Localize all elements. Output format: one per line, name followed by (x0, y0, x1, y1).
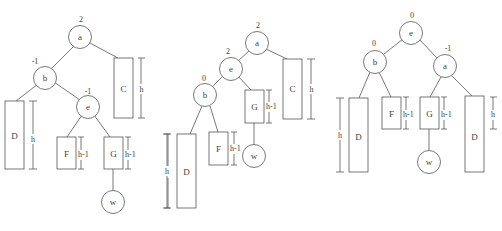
height-bracket-D: h (163, 134, 171, 208)
svg-text:2: 2 (79, 15, 83, 24)
svg-text:e: e (229, 64, 233, 74)
node-e: e 0 (400, 11, 423, 45)
node-a: a -1 (434, 44, 457, 78)
svg-text:h-1: h-1 (125, 150, 136, 159)
svg-text:G: G (110, 149, 117, 159)
svg-text:h-1: h-1 (78, 150, 89, 159)
subtree-D-left: D (349, 98, 368, 172)
subtree-C: C (283, 59, 302, 119)
height-bracket-G: h-1 (125, 137, 137, 169)
node-w: w (418, 151, 441, 174)
svg-text:C: C (289, 84, 295, 94)
node-a: a 2 (246, 21, 269, 55)
svg-text:D: D (11, 131, 18, 141)
node-w: w (102, 191, 125, 214)
svg-text:a: a (78, 32, 82, 42)
height-bracket-C: h (307, 59, 315, 119)
svg-text:F: F (64, 149, 69, 159)
subtree-G: G (420, 97, 439, 129)
svg-text:h-1: h-1 (266, 102, 277, 111)
subtree-F: F (209, 132, 228, 165)
subtree-D: D (5, 101, 24, 169)
svg-text:h: h (140, 85, 144, 94)
svg-text:F: F (216, 144, 221, 154)
svg-text:h-1: h-1 (403, 110, 414, 119)
svg-text:h-1: h-1 (230, 144, 241, 153)
svg-text:h: h (165, 167, 169, 176)
subtree-F: F (382, 97, 401, 129)
node-w: w (243, 145, 266, 168)
subtree-F: F (57, 137, 76, 169)
svg-text:h: h (491, 110, 495, 119)
height-bracket-G: h-1 (266, 90, 278, 123)
height-bracket-F: h-1 (78, 137, 90, 169)
subtree-G: G (104, 137, 123, 169)
panel-before: C D F G h h (5, 15, 171, 214)
height-bracket-G: h-1 (441, 97, 453, 129)
svg-text:0: 0 (410, 11, 414, 20)
panel-after-second-rotation: D F G D h h-1 (336, 11, 497, 174)
height-bracket-D-right: h (490, 97, 497, 129)
svg-text:b: b (373, 57, 378, 67)
subtree-G: G (245, 90, 264, 123)
svg-text:w: w (251, 151, 258, 161)
panel-after-first-rotation: C G F D h h-1 (163, 21, 315, 208)
subtree-C: C (114, 58, 133, 118)
svg-text:w: w (426, 157, 433, 167)
svg-text:e: e (409, 28, 413, 38)
subtree-D-right: D (465, 96, 484, 172)
svg-text:0: 0 (202, 74, 206, 83)
svg-text:b: b (43, 73, 48, 83)
svg-text:G: G (426, 109, 433, 119)
node-e: e -1 (77, 87, 100, 119)
svg-text:D: D (471, 132, 478, 142)
svg-text:2: 2 (226, 47, 230, 56)
svg-text:-1: -1 (85, 87, 92, 96)
node-b: b 0 (364, 39, 387, 74)
svg-text:e: e (86, 102, 90, 112)
svg-text:F: F (389, 109, 394, 119)
svg-text:D: D (355, 132, 362, 142)
height-bracket-F: h-1 (230, 132, 242, 165)
svg-text:b: b (203, 90, 208, 100)
subtree-D: D (177, 134, 196, 208)
svg-text:0: 0 (372, 39, 376, 48)
height-bracket-D: h (29, 101, 37, 169)
height-bracket-C: h (138, 58, 145, 118)
svg-text:h-1: h-1 (441, 110, 452, 119)
svg-text:a: a (443, 61, 447, 71)
svg-text:h: h (338, 131, 342, 140)
svg-text:G: G (251, 102, 258, 112)
svg-text:2: 2 (256, 21, 260, 30)
node-e: e 2 (220, 47, 243, 81)
node-a: a 2 (69, 15, 92, 49)
svg-text:a: a (255, 38, 259, 48)
height-bracket-D-left: h (336, 98, 344, 172)
svg-text:C: C (120, 84, 126, 94)
node-b: b -1 (32, 57, 57, 90)
node-b: b 0 (194, 74, 217, 107)
svg-text:h: h (310, 85, 314, 94)
svg-text:-1: -1 (445, 44, 452, 53)
avl-rotation-diagram: C D F G h h (0, 0, 502, 231)
svg-text:h: h (31, 135, 35, 144)
svg-text:D: D (183, 167, 190, 177)
svg-text:-1: -1 (32, 57, 39, 66)
height-bracket-F: h-1 (403, 97, 415, 129)
svg-text:w: w (110, 197, 117, 207)
